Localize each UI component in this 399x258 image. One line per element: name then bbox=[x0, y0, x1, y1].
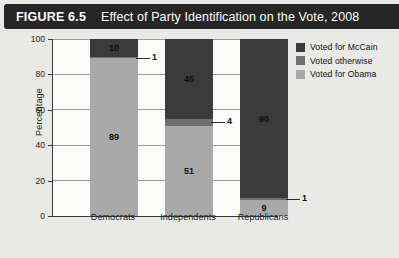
bar-segment[interactable]: 10 bbox=[90, 39, 138, 57]
bar-independents[interactable]: 5145 bbox=[165, 39, 213, 216]
bar-segment[interactable]: 90 bbox=[240, 39, 288, 198]
data-label-callout: 1 bbox=[152, 52, 157, 62]
legend-swatch-icon bbox=[296, 43, 305, 52]
x-tick-label: Republicans bbox=[218, 212, 308, 222]
data-label: 89 bbox=[90, 132, 138, 142]
legend-label: Voted for McCain bbox=[310, 42, 378, 52]
legend-swatch-icon bbox=[296, 56, 305, 65]
y-tick-label: 80 bbox=[19, 69, 45, 79]
bar-republicans[interactable]: 990 bbox=[240, 39, 288, 216]
leader-line bbox=[136, 58, 150, 59]
leader-line bbox=[211, 122, 225, 123]
figure-title-bar: FIGURE 6.5 Effect of Party Identificatio… bbox=[4, 4, 399, 29]
data-label-callout: 1 bbox=[302, 193, 307, 203]
data-label: 10 bbox=[90, 43, 138, 53]
legend-label: Voted for Obama bbox=[310, 69, 376, 79]
bar-segment[interactable]: 45 bbox=[165, 39, 213, 119]
legend-item[interactable]: Voted otherwise bbox=[296, 56, 378, 66]
legend-item[interactable]: Voted for Obama bbox=[296, 69, 378, 79]
legend-label: Voted otherwise bbox=[310, 56, 373, 66]
page-title: Effect of Party Identification on the Vo… bbox=[101, 10, 359, 24]
bar-segment[interactable]: 51 bbox=[165, 126, 213, 216]
figure-container: FIGURE 6.5 Effect of Party Identificatio… bbox=[0, 0, 399, 258]
bar-segment[interactable] bbox=[240, 198, 288, 200]
y-tick-label: 100 bbox=[19, 34, 45, 44]
data-label: 51 bbox=[165, 166, 213, 176]
y-tick-label: 60 bbox=[19, 105, 45, 115]
data-label: 90 bbox=[240, 114, 288, 124]
legend-item[interactable]: Voted for McCain bbox=[296, 42, 378, 52]
data-label-callout: 4 bbox=[227, 116, 232, 126]
data-label: 45 bbox=[165, 74, 213, 84]
leader-line bbox=[286, 199, 300, 200]
bar-segment[interactable]: 89 bbox=[90, 58, 138, 216]
figure-number: FIGURE 6.5 bbox=[16, 10, 86, 24]
plot-area: 89105145990 141 bbox=[52, 39, 278, 217]
bar-democrats[interactable]: 8910 bbox=[90, 39, 138, 216]
y-tick-label: 0 bbox=[19, 211, 45, 221]
legend-swatch-icon bbox=[296, 70, 305, 79]
y-tick-label: 40 bbox=[19, 140, 45, 150]
bar-segment[interactable] bbox=[165, 119, 213, 126]
y-tick-label: 20 bbox=[19, 176, 45, 186]
bar-segment[interactable] bbox=[90, 57, 138, 59]
legend: Voted for McCainVoted otherwiseVoted for… bbox=[296, 42, 378, 83]
